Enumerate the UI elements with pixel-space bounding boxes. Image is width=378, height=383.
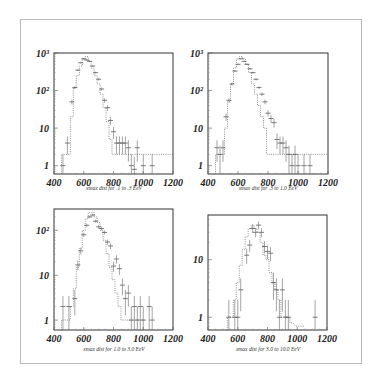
simulation-histogram	[227, 225, 304, 330]
data-point	[286, 300, 291, 330]
y-tick-label: 10	[193, 254, 203, 265]
x-tick-label: 1000	[287, 333, 307, 344]
data-point	[268, 247, 273, 261]
panel-caption: xmax dist for 3.0 to 10.0 EeV	[208, 346, 328, 352]
data-point	[313, 300, 318, 330]
x-tick-label: 600	[230, 333, 245, 344]
data-point	[265, 245, 270, 259]
x-tick-label: 800	[260, 333, 275, 344]
y-tick-label: 1	[198, 312, 203, 323]
data-point	[280, 278, 285, 311]
histogram-plot-br: 40060080010001200110	[0, 0, 378, 383]
x-tick-label: 1200	[317, 333, 337, 344]
data-point	[247, 240, 252, 252]
data-point	[244, 249, 249, 264]
data-point	[256, 221, 261, 229]
data-point	[238, 278, 243, 311]
x-tick-label: 400	[200, 333, 216, 344]
data-point	[283, 300, 288, 330]
data-point	[235, 300, 240, 330]
plot-frame	[208, 215, 327, 330]
